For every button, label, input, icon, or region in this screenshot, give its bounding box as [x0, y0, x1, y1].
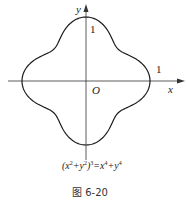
- curve-equation: (x2+y2)3=x4+y4: [62, 160, 122, 171]
- y-axis-label: y: [76, 4, 81, 15]
- y-intercept-label: 1: [90, 24, 96, 35]
- x-axis-label: x: [168, 84, 173, 95]
- y-axis-arrow-icon: [84, 4, 89, 12]
- x-axis-arrow-icon: [177, 79, 185, 84]
- x-intercept-label: 1: [156, 64, 162, 75]
- figure-caption: 图 6-20: [72, 184, 108, 199]
- origin-label: O: [92, 85, 100, 96]
